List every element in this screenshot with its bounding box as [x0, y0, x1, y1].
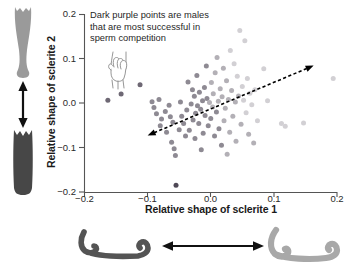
data-point [246, 132, 251, 137]
x-axis-label: Relative shape of sclerite 1 [84, 203, 338, 215]
data-point [191, 117, 196, 122]
data-point [301, 121, 306, 126]
data-point [331, 76, 336, 81]
y-axis-label: Relative shape of sclerite 2 [45, 2, 57, 202]
data-point [202, 85, 207, 90]
data-point [192, 94, 197, 99]
sclerite-1-light-shape [271, 230, 337, 259]
scatter-plot: −0.2 −0.1 0.0 0.1 0.2 −0.2 −0.1 0.0 0.1 … [0, 0, 351, 215]
data-point [245, 76, 250, 81]
data-point [204, 64, 209, 69]
data-point [241, 98, 246, 103]
data-point [151, 105, 156, 110]
data-point [255, 118, 260, 123]
data-point [207, 100, 212, 105]
data-point [223, 106, 228, 111]
sclerite-1-dark-shape [81, 232, 148, 256]
data-point [213, 70, 218, 75]
data-point [154, 111, 159, 116]
data-point [225, 152, 230, 157]
data-point [190, 87, 195, 92]
data-point [187, 128, 192, 133]
data-point [235, 74, 240, 79]
data-point [177, 127, 182, 132]
data-point [158, 123, 163, 128]
data-point [214, 109, 219, 114]
data-point [186, 80, 191, 85]
data-point [184, 108, 189, 113]
annotation-line-3: sperm competition [90, 33, 260, 45]
data-point [229, 88, 234, 93]
data-point [218, 86, 223, 91]
sclerite-1-shape-comparison [72, 224, 346, 268]
data-point [216, 126, 221, 131]
data-point [227, 130, 232, 135]
data-point [208, 116, 213, 121]
data-point [138, 82, 143, 87]
bottom-illustration-svg [72, 224, 346, 268]
data-point [163, 109, 168, 114]
data-point [283, 124, 288, 129]
data-point [211, 91, 216, 96]
data-point [198, 107, 203, 112]
y-axis-ticks [79, 15, 84, 193]
data-point [215, 55, 220, 60]
trend-arrow-head-upper-right [305, 66, 314, 72]
data-point [150, 99, 155, 104]
data-point [192, 136, 197, 141]
data-points-group [105, 28, 335, 188]
data-point [197, 90, 202, 95]
data-point [228, 48, 233, 53]
data-point [232, 61, 237, 66]
data-point [173, 153, 178, 158]
data-point [167, 103, 172, 108]
data-point [168, 114, 173, 119]
data-point [265, 98, 270, 103]
horizontal-double-arrow [162, 241, 264, 251]
data-point [233, 100, 238, 105]
data-point [174, 183, 179, 188]
figure-root: −0.2 −0.1 0.0 0.1 0.2 −0.2 −0.1 0.0 0.1 … [0, 0, 351, 268]
data-point [222, 118, 227, 123]
data-point [224, 78, 229, 83]
data-point [199, 147, 204, 152]
data-point [216, 99, 221, 104]
data-point [239, 122, 244, 127]
annotation-text: Dark purple points are males that are mo… [90, 10, 260, 45]
data-point [249, 102, 254, 107]
data-point [196, 121, 201, 126]
data-point [230, 114, 235, 119]
data-point [169, 140, 174, 145]
data-point [159, 117, 164, 122]
data-point [261, 66, 266, 71]
data-point [178, 100, 183, 105]
data-point [220, 94, 225, 99]
data-point [164, 130, 169, 135]
data-point [172, 146, 177, 151]
data-point [234, 139, 239, 144]
data-point [156, 97, 161, 102]
data-point [179, 114, 184, 119]
annotation-line-1: Dark purple points are males [90, 10, 260, 22]
data-point [194, 73, 199, 78]
data-point [183, 133, 188, 138]
data-point [119, 92, 124, 97]
data-point [244, 110, 249, 115]
data-point [170, 120, 175, 125]
pointing-hand-icon [109, 52, 127, 89]
data-point [221, 66, 226, 71]
data-point [189, 101, 194, 106]
data-point [201, 131, 206, 136]
data-point [240, 84, 245, 89]
annotation-line-2: that are most successful in [90, 22, 260, 34]
data-point [200, 98, 205, 103]
data-point [209, 80, 214, 85]
data-point [219, 143, 224, 148]
data-point [251, 141, 256, 146]
trend-arrow-head-lower-left [148, 129, 157, 135]
data-point [105, 98, 110, 103]
data-point [212, 133, 217, 138]
data-point [206, 123, 211, 128]
data-point [203, 113, 208, 118]
